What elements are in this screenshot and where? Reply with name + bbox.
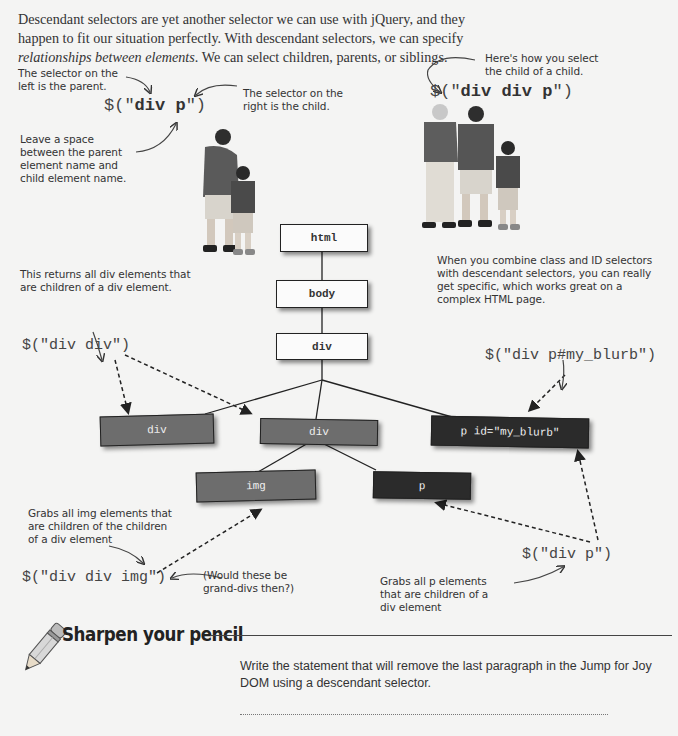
note-child: The selector on the right is the child. bbox=[243, 87, 343, 113]
selector-div-div: $("div div") bbox=[22, 337, 130, 354]
three-generations-photo bbox=[418, 100, 528, 235]
exercise-prompt: Write the statement that will remove the… bbox=[240, 658, 660, 692]
note-child-of-child: Here's how you select the child of a chi… bbox=[485, 52, 598, 78]
dashed-arrows bbox=[115, 355, 598, 573]
selector-div-p-my-blurb: $("div p#my_blurb") bbox=[485, 347, 656, 364]
answer-blank[interactable] bbox=[240, 714, 608, 715]
father-son-photo bbox=[175, 125, 257, 260]
note-combine-selectors: When you combine class and ID selectors … bbox=[437, 254, 652, 306]
section-divider bbox=[210, 635, 672, 636]
node-div-center: div bbox=[260, 418, 378, 446]
node-div-left: div bbox=[100, 414, 215, 447]
selector-div-p: $("div p") bbox=[522, 546, 612, 563]
note-parent: The selector on the left is the parent. bbox=[18, 67, 118, 93]
note-space: Leave a space between the parent element… bbox=[20, 133, 126, 185]
note-grand-divs: (Would these be grand-divs then?) bbox=[203, 569, 294, 595]
node-p: p bbox=[373, 471, 471, 500]
note-p: Grabs all p elements that are children o… bbox=[380, 575, 488, 614]
node-div-root: div bbox=[276, 333, 368, 360]
node-img: img bbox=[196, 469, 317, 502]
selector-div-p-bold: $("div p") bbox=[104, 96, 206, 115]
note-img: Grabs all img elements that are children… bbox=[28, 507, 172, 546]
selector-div-div-p-bold: $("div div p") bbox=[430, 82, 573, 101]
node-p-my-blurb: p id="my_blurb" bbox=[431, 416, 589, 449]
selector-div-div-img: $("div div img") bbox=[22, 569, 166, 586]
node-body: body bbox=[276, 280, 368, 308]
note-div-div: This returns all div elements that are c… bbox=[20, 268, 190, 294]
sharpen-your-pencil-title: Sharpen your pencil bbox=[62, 623, 243, 645]
node-html: html bbox=[280, 224, 368, 252]
